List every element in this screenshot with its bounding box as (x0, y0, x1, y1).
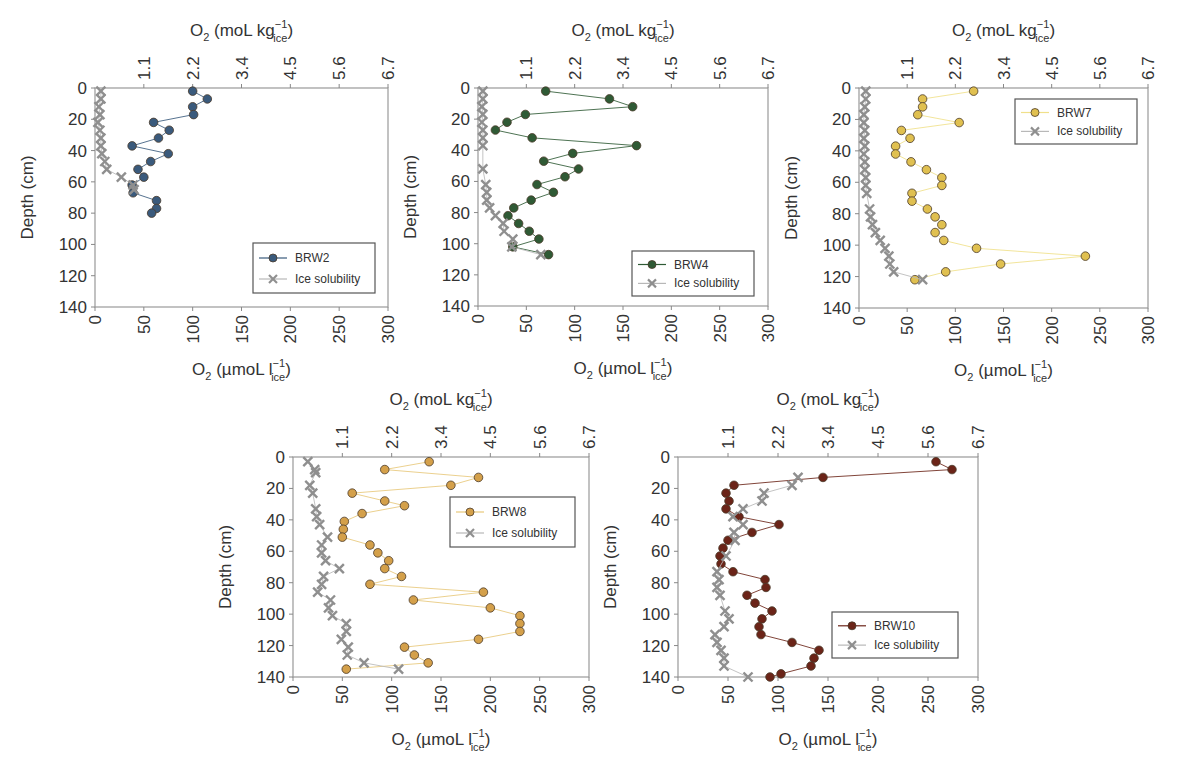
bottom-axis-title-sup: −1 (273, 357, 286, 369)
data-point (766, 673, 775, 682)
y-axis-title: Depth (cm) (782, 156, 801, 240)
data-point (509, 204, 518, 213)
y-tick-label: 0 (276, 448, 285, 467)
data-point (948, 465, 957, 474)
data-point-x (335, 564, 344, 573)
legend: BRW8Ice solubility (450, 497, 575, 547)
data-point (932, 457, 941, 466)
data-point (338, 533, 347, 542)
bottom-axis-title-sup: −1 (472, 727, 485, 739)
data-point (758, 615, 767, 624)
top-tick-label: 1.1 (517, 56, 536, 80)
data-point-x (117, 173, 126, 182)
data-point (154, 134, 163, 143)
x-tick-label: 200 (1043, 316, 1062, 344)
data-point (541, 87, 550, 96)
data-point-x (323, 533, 332, 542)
data-point (819, 473, 828, 482)
data-point (165, 126, 174, 135)
top-tick-label: 3.4 (233, 56, 252, 80)
x-tick-label: 50 (517, 314, 536, 333)
data-point-x (720, 622, 729, 631)
x-tick-label: 0 (850, 316, 869, 325)
y-tick-label: 60 (451, 172, 470, 191)
y-tick-label: 100 (823, 236, 851, 255)
data-point (424, 659, 433, 668)
x-tick-label: 300 (379, 315, 398, 343)
top-tick-label: 3.4 (432, 425, 451, 449)
data-point (748, 528, 757, 537)
data-point (380, 465, 389, 474)
x-tick-label: 100 (184, 315, 203, 343)
y-axis-title: Depth (cm) (401, 155, 420, 239)
data-point-x (713, 567, 722, 576)
data-point-x (315, 520, 324, 529)
data-point (931, 213, 940, 222)
y-tick-label: 140 (642, 668, 670, 687)
y-tick-label: 40 (651, 511, 670, 530)
y-tick-label: 120 (59, 267, 87, 286)
legend-label: Ice solubility (674, 276, 739, 290)
series-brw8 (338, 457, 524, 673)
bottom-axis-title-ice: ice (1033, 372, 1047, 384)
legend-circle-marker (1031, 109, 1039, 117)
x-tick-label: 200 (481, 685, 500, 713)
y-tick-label: 0 (78, 79, 87, 98)
data-point (561, 172, 570, 181)
data-point-x (716, 591, 725, 600)
data-point-x (100, 157, 109, 166)
top-axis-title-o: O (571, 21, 584, 40)
data-point (938, 220, 947, 229)
data-point (410, 651, 419, 660)
y-tick-label: 80 (68, 204, 87, 223)
data-point (188, 87, 197, 96)
data-point (425, 457, 434, 466)
bottom-axis-title-sup: −1 (654, 356, 667, 368)
top-tick-label: 4.5 (481, 425, 500, 449)
data-point-x (788, 481, 797, 490)
legend-label: Ice solubility (874, 638, 939, 652)
data-point (504, 211, 513, 220)
y-tick-label: 40 (832, 142, 851, 161)
bottom-axis-title-ice: ice (471, 741, 485, 753)
data-point (810, 654, 819, 663)
top-axis-title-sup: −1 (656, 18, 669, 30)
x-tick-label: 150 (995, 316, 1014, 344)
top-axis-title: O2 (moL kg−1ice) (571, 18, 674, 44)
data-point-x (394, 665, 403, 674)
data-point-x (758, 497, 767, 506)
bottom-axis-title-o: O (779, 730, 792, 749)
y-tick-label: 60 (832, 173, 851, 192)
data-point-x (326, 596, 335, 605)
data-point (722, 489, 731, 498)
x-tick-label: 200 (662, 314, 681, 342)
legend-label: BRW8 (492, 505, 527, 519)
y-tick-label: 20 (68, 110, 87, 129)
legend-label: BRW2 (295, 251, 330, 265)
data-point (384, 556, 393, 565)
data-point (358, 509, 367, 518)
top-tick-label: 4.5 (281, 56, 300, 80)
legend-circle-marker (269, 254, 277, 262)
y-axis-title: Depth (cm) (18, 155, 37, 239)
top-axis-title-close: ) (874, 390, 880, 409)
legend-label: BRW4 (674, 258, 709, 272)
data-point (164, 149, 173, 158)
data-point (891, 142, 900, 151)
top-axis-title: O2 (moL kg−1ice) (776, 387, 879, 413)
data-point (729, 567, 738, 576)
top-tick-label: 2.2 (184, 56, 203, 80)
data-point (203, 95, 212, 104)
top-axis-title-o: O (952, 21, 965, 40)
x-tick-label: 300 (969, 685, 988, 713)
data-point (516, 619, 525, 628)
data-point (188, 102, 197, 111)
data-point (918, 95, 927, 104)
y-tick-label: 0 (661, 448, 670, 467)
data-point (380, 564, 389, 573)
data-point (632, 141, 641, 150)
data-point (400, 501, 409, 510)
data-point (913, 110, 922, 119)
x-tick-label: 100 (769, 685, 788, 713)
x-tick-label: 250 (330, 315, 349, 343)
